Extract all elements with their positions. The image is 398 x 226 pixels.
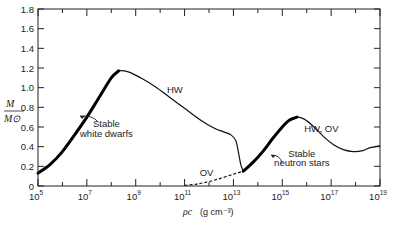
x-tick-label: 1015 [271, 189, 289, 202]
annotation: HW [167, 84, 183, 95]
x-tick-label: 1011 [174, 189, 192, 202]
y-tick-label: 1.4 [21, 43, 34, 54]
annotation: OV [200, 167, 214, 178]
curve-hw [38, 71, 243, 174]
y-label-numerator: M [5, 98, 15, 109]
x-tick-label: 1013 [223, 189, 241, 202]
x-axis-label: ρc (g cm⁻³) [182, 206, 234, 217]
curve-ov [185, 171, 244, 185]
y-tick-label: 1.0 [21, 82, 34, 93]
y-tick-label: 1.6 [21, 23, 34, 34]
y-tick-label: 0.4 [21, 141, 34, 152]
annotation: HW, OV [304, 123, 339, 134]
mass-density-chart: 1051071091011101310151017101900.20.40.60… [0, 0, 398, 226]
y-tick-label: 0.2 [21, 161, 34, 172]
annotation: white dwarfs [79, 128, 133, 139]
y-tick-label: 1.8 [21, 4, 34, 15]
y-tick-label: 1.2 [21, 63, 34, 74]
annotations: HWOVHW, OVStablewhite dwarfsStableneutro… [79, 84, 339, 179]
x-tick-label: 1019 [369, 189, 387, 202]
x-label-units: (g cm⁻³) [200, 207, 234, 217]
y-tick-label: 0 [29, 181, 34, 192]
x-tick-label: 107 [78, 189, 93, 202]
x-tick-label: 1017 [320, 189, 338, 202]
x-label-symbol: ρc [182, 206, 193, 217]
x-tick-label: 109 [127, 189, 142, 202]
annotation: neutron stars [274, 157, 330, 168]
y-label-denominator: M⊙ [3, 113, 21, 124]
y-tick-label: 0.6 [21, 122, 34, 133]
